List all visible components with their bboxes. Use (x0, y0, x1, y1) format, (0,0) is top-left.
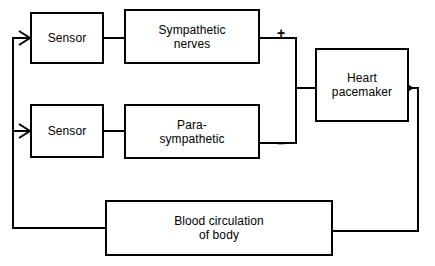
block-heart-pacemaker[interactable]: Heart pacemaker (315, 48, 409, 122)
block-sympathetic-nerves[interactable]: Sympathetic nerves (124, 9, 260, 64)
block-sensor-lower[interactable]: Sensor (30, 104, 104, 158)
block-para-sympathetic[interactable]: Para- sympathetic (124, 104, 260, 159)
block-sensor-upper[interactable]: Sensor (30, 12, 104, 64)
summing-sign-plus: + (274, 26, 288, 40)
block-diagram-canvas: Sensor Sympathetic nerves Sensor Para- s… (0, 0, 435, 266)
block-para-sympathetic-label: Para- sympathetic (157, 118, 226, 146)
block-sensor-upper-label: Sensor (46, 31, 89, 45)
block-sensor-lower-label: Sensor (46, 124, 89, 138)
block-sympathetic-nerves-label: Sympathetic nerves (156, 23, 227, 51)
block-heart-pacemaker-label: Heart pacemaker (330, 71, 394, 99)
block-blood-circulation-label: Blood circulation of body (172, 214, 266, 242)
block-blood-circulation[interactable]: Blood circulation of body (105, 200, 333, 256)
summing-sign-minus: – (274, 136, 288, 150)
